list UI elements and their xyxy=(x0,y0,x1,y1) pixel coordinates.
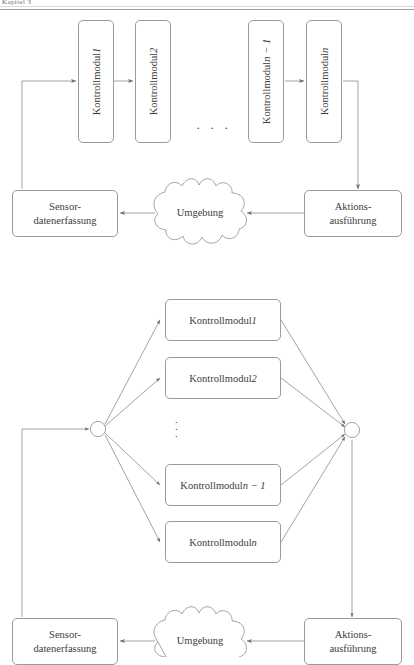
arrow-split-to-pkm1 xyxy=(105,320,160,424)
module-box-pkmn-minus-1[interactable]: Kontrollmodul n − 1 xyxy=(165,464,281,506)
arrow-pkmn1-to-join xyxy=(281,434,345,485)
module-box-pkmn[interactable]: Kontrollmodul n xyxy=(165,521,281,563)
action-box-top[interactable]: Aktions- ausführung xyxy=(304,190,402,237)
sensor-box-bottom-label: Sensor- datenerfassung xyxy=(13,619,117,664)
action-box-bottom[interactable]: Aktions- ausführung xyxy=(304,618,402,665)
arrow-split-to-pkmn1 xyxy=(105,433,160,485)
module-label-kmn: Kontrollmodul n xyxy=(264,65,385,99)
module-label-pkmn: Kontrollmodul n xyxy=(166,522,280,562)
arrow-split-to-pkm2 xyxy=(105,378,160,426)
split-node xyxy=(90,421,105,436)
environment-label-top: Umgebung xyxy=(170,207,230,218)
action-box-top-label: Aktions- ausführung xyxy=(305,191,401,236)
sequential-ellipsis: · · · xyxy=(196,120,232,136)
environment-blob-bottom xyxy=(154,607,246,657)
module-box-pkm1[interactable]: Kontrollmodul 1 xyxy=(165,299,281,341)
sensor-box-top[interactable]: Sensor- datenerfassung xyxy=(12,190,118,237)
module-label-pkm2: Kontrollmodul 2 xyxy=(166,358,280,398)
action-box-bottom-label: Aktions- ausführung xyxy=(305,619,401,664)
environment-label-bottom: Umgebung xyxy=(170,635,230,646)
sensor-box-top-label: Sensor- datenerfassung xyxy=(13,191,117,236)
join-node xyxy=(344,422,359,437)
arrow-pkm1-to-join xyxy=(281,320,345,424)
arrow-split-to-pkmn xyxy=(105,435,160,542)
module-label-pkmn-minus-1: Kontrollmodul n − 1 xyxy=(166,465,280,505)
module-box-pkm2[interactable]: Kontrollmodul 2 xyxy=(165,357,281,399)
module-box-kmn[interactable]: Kontrollmodul n xyxy=(306,20,342,143)
module-label-km2: Kontrollmodul 2 xyxy=(93,65,214,99)
arrow-sensor-to-split xyxy=(22,429,89,617)
sensor-box-bottom[interactable]: Sensor- datenerfassung xyxy=(12,618,118,665)
arrow-pkm2-to-join xyxy=(281,378,345,427)
arrow-pkmn-to-join xyxy=(281,437,345,542)
parallel-ellipsis: ... xyxy=(175,416,178,437)
module-box-km2[interactable]: Kontrollmodul 2 xyxy=(135,20,171,143)
module-label-pkm1: Kontrollmodul 1 xyxy=(166,300,280,340)
